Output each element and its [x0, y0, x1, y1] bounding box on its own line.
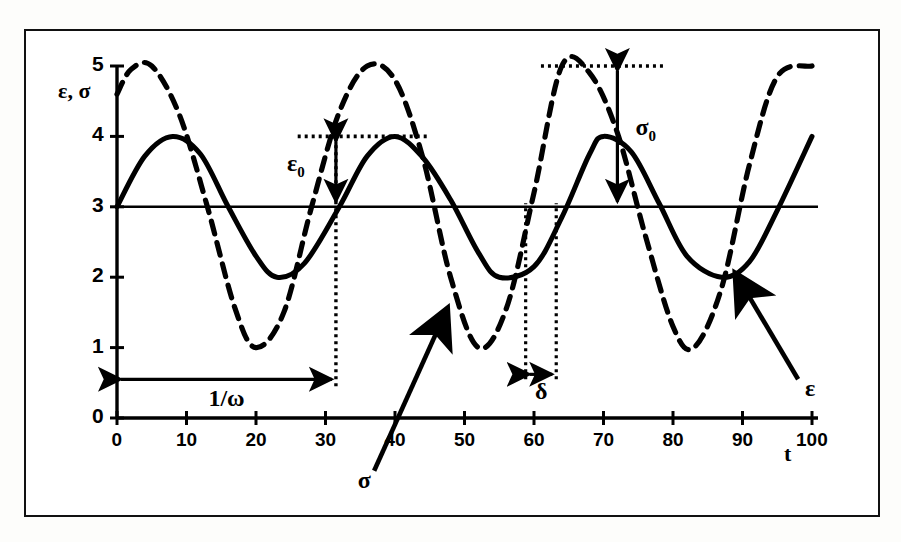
- figure-root: 0102030405060708090100012345ε, σtε0σ01/ω…: [0, 0, 901, 542]
- y-tick-label-1: 1: [92, 334, 104, 358]
- delta-label: δ: [535, 378, 547, 405]
- y-tick-label-3: 3: [92, 193, 104, 217]
- one-over-omega-label: 1/ω: [208, 385, 244, 412]
- series-group: [117, 56, 812, 349]
- y-axis-title: ε, σ: [58, 78, 90, 104]
- x-tick-label-70: 70: [593, 429, 614, 451]
- sigma-pointer-label: σ: [358, 467, 371, 494]
- y-tick-label-2: 2: [92, 263, 104, 287]
- x-tick-label-30: 30: [315, 429, 336, 451]
- sigma-zero-label: σ0: [635, 114, 656, 145]
- x-tick-label-50: 50: [454, 429, 475, 451]
- series-sigma: [117, 56, 812, 349]
- x-tick-label-10: 10: [176, 429, 197, 451]
- x-tick-label-0: 0: [112, 429, 123, 451]
- x-tick-label-100: 100: [796, 429, 828, 451]
- epsilon-pointer-arrow: [736, 274, 799, 380]
- chart-canvas: [0, 0, 901, 542]
- x-tick-label-80: 80: [663, 429, 684, 451]
- x-tick-label-90: 90: [732, 429, 753, 451]
- x-tick-label-20: 20: [246, 429, 267, 451]
- x-tick-label-40: 40: [385, 429, 406, 451]
- epsilon-zero-label: ε0: [287, 150, 305, 181]
- x-axis-title: t: [784, 441, 791, 467]
- y-tick-label-0: 0: [92, 404, 104, 428]
- x-tick-label-60: 60: [524, 429, 545, 451]
- epsilon-pointer-label: ε: [805, 375, 815, 402]
- y-tick-label-4: 4: [92, 122, 104, 146]
- y-tick-label-5: 5: [92, 52, 104, 76]
